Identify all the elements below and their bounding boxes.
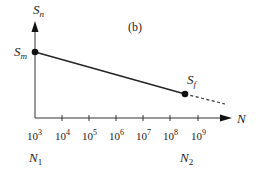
point-sf (182, 91, 189, 98)
y-axis-arrow-icon (32, 21, 39, 32)
tick-label-1e7: 107 (136, 128, 151, 142)
tick-label-1e4: 104 (55, 128, 70, 142)
x-tick-labels: 103 104 105 106 107 108 109 (27, 128, 206, 142)
tick-label-1e5: 105 (82, 128, 97, 142)
sn-diagram: Sn (b) Sm Sf N 103 104 105 106 107 108 1… (0, 0, 259, 171)
tick-label-1e9: 109 (191, 128, 206, 142)
tick-label-1e6: 106 (109, 128, 124, 142)
n1-label: N1 (28, 150, 42, 167)
sn-curve-solid (35, 52, 185, 94)
sm-label: Sm (14, 44, 28, 61)
tick-label-1e3: 103 (27, 128, 42, 142)
x-axis-label: N (236, 111, 247, 126)
sn-curve-dashed (185, 94, 225, 104)
sf-label: Sf (187, 72, 198, 89)
tick-label-1e8: 108 (163, 128, 178, 142)
panel-label: (b) (128, 20, 142, 34)
y-axis-label: Sn (33, 2, 45, 19)
point-sm (32, 49, 39, 56)
x-axis-arrow-icon (220, 115, 232, 122)
n2-label: N2 (179, 150, 193, 167)
